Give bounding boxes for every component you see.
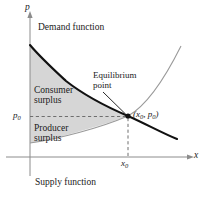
demand-function-label: Demand function <box>38 22 104 32</box>
equilibrium-point-label: Equilibrium point <box>93 71 137 90</box>
producer-surplus-label-line2: surplus <box>34 133 61 143</box>
x-axis-arrowhead <box>187 154 194 159</box>
economics-surplus-figure: p x Demand function Supply function Cons… <box>0 0 208 198</box>
consumer-surplus-label-line2: surplus <box>34 95 61 105</box>
consumer-surplus-label: Consumer surplus <box>34 85 73 106</box>
supply-function-label: Supply function <box>35 177 96 187</box>
equilibrium-coordinate-label: (x0, p0) <box>133 110 158 120</box>
p-axis-label: p <box>25 2 30 12</box>
price-tick-label: p0 <box>13 111 21 121</box>
x-axis-label: x <box>194 150 198 160</box>
quantity-tick-label: x0 <box>121 159 128 169</box>
producer-surplus-label: Producer surplus <box>34 123 68 144</box>
coordinate-close-paren: ) <box>155 109 158 119</box>
equilibrium-point-label-line1: Equilibrium <box>93 70 137 80</box>
coordinate-x-subscript: 0 <box>140 113 143 120</box>
coordinate-p-subscript: 0 <box>152 113 155 120</box>
price-tick-subscript: 0 <box>18 114 21 121</box>
quantity-tick-subscript: 0 <box>125 162 128 169</box>
price-tick-symbol: p <box>13 110 18 120</box>
consumer-surplus-label-line1: Consumer <box>34 85 73 95</box>
equilibrium-point-marker <box>125 113 130 118</box>
producer-surplus-label-line1: Producer <box>34 123 68 133</box>
equilibrium-point-label-line2: point <box>93 80 112 90</box>
